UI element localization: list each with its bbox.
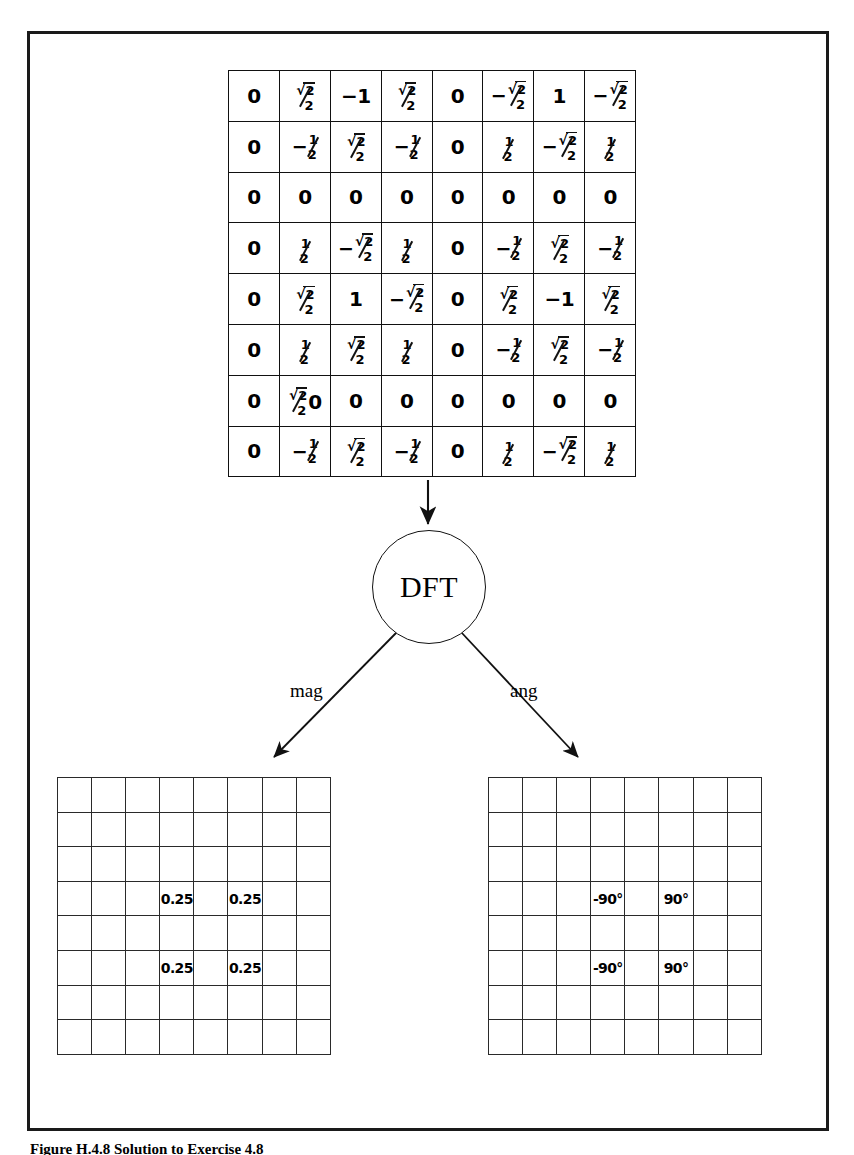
- magnitude-grid-cell-r2-c1: [58, 812, 92, 847]
- matrix-cell-r2-c8: 12: [585, 121, 636, 172]
- matrix-row: 0−12√22−12012−√2212: [229, 426, 636, 477]
- angle-grid-cell-r5-c4: [591, 916, 625, 951]
- angle-grid-cell-r6-c7: [693, 950, 727, 985]
- dft-node-label: DFT: [400, 570, 458, 604]
- magnitude-grid-cell-r1-c6: [228, 778, 262, 813]
- magnitude-grid-cell-r3-c3: [126, 847, 160, 882]
- magnitude-grid-row: 0.250.25: [58, 950, 331, 985]
- matrix-cell-r4-c7: √22: [534, 223, 585, 274]
- matrix-cell-r3-c8: 0: [585, 172, 636, 223]
- matrix-cell-r6-c4: 12: [381, 324, 432, 375]
- angle-grid-cell-r6-c8: [727, 950, 761, 985]
- magnitude-grid-cell-r8-c4: [160, 1020, 194, 1055]
- magnitude-grid-cell-r2-c8: [296, 812, 330, 847]
- matrix-cell-r1-c4: √22: [381, 71, 432, 122]
- angle-grid-cell-r5-c8: [727, 916, 761, 951]
- matrix-cell-r7-c6: 0: [483, 375, 534, 426]
- angle-grid-row: [489, 985, 762, 1020]
- matrix-cell-r6-c7: √22: [534, 324, 585, 375]
- matrix-cell-r2-c2: −12: [279, 121, 330, 172]
- magnitude-grid-cell-r3-c2: [92, 847, 126, 882]
- matrix-cell-r3-c7: 0: [534, 172, 585, 223]
- angle-grid-cell-r8-c8: [727, 1020, 761, 1055]
- magnitude-grid-cell-r4-c5: [194, 881, 228, 916]
- matrix-cell-r5-c5: 0: [432, 274, 483, 325]
- angle-grid-cell-r3-c5: [625, 847, 659, 882]
- magnitude-grid-cell-r1-c1: [58, 778, 92, 813]
- magnitude-grid-cell-r7-c4: [160, 985, 194, 1020]
- magnitude-output-grid: 0.250.250.250.25: [57, 777, 331, 1055]
- matrix-cell-r1-c6: −√22: [483, 71, 534, 122]
- dft-node: DFT: [372, 530, 486, 644]
- magnitude-grid-cell-r3-c7: [262, 847, 296, 882]
- angle-grid-cell-r4-c5: [625, 881, 659, 916]
- angle-grid-cell-r8-c7: [693, 1020, 727, 1055]
- matrix-cell-r5-c1: 0: [229, 274, 280, 325]
- magnitude-grid-cell-r3-c5: [194, 847, 228, 882]
- angle-grid-cell-r8-c6: [659, 1020, 693, 1055]
- matrix-cell-r7-c8: 0: [585, 375, 636, 426]
- matrix-cell-r8-c1: 0: [229, 426, 280, 477]
- magnitude-grid-row: [58, 778, 331, 813]
- angle-grid-cell-r1-c1: [489, 778, 523, 813]
- magnitude-grid-cell-r3-c8: [296, 847, 330, 882]
- matrix-cell-r8-c3: √22: [330, 426, 381, 477]
- magnitude-grid-cell-r6-c4: 0.25: [160, 950, 194, 985]
- magnitude-grid-cell-r2-c7: [262, 812, 296, 847]
- magnitude-grid-cell-r2-c5: [194, 812, 228, 847]
- angle-grid-cell-r2-c5: [625, 812, 659, 847]
- magnitude-grid-cell-r5-c2: [92, 916, 126, 951]
- angle-grid-cell-r4-c2: [523, 881, 557, 916]
- angle-grid-cell-r5-c3: [557, 916, 591, 951]
- matrix-cell-r6-c1: 0: [229, 324, 280, 375]
- matrix-cell-r7-c5: 0: [432, 375, 483, 426]
- angle-grid-cell-r5-c6: [659, 916, 693, 951]
- angle-grid-cell-r3-c4: [591, 847, 625, 882]
- input-image-matrix: 0√22−1√220−√221−√220−12√22−12012−√221200…: [228, 70, 636, 477]
- angle-grid-cell-r1-c8: [727, 778, 761, 813]
- magnitude-grid-cell-r7-c6: [228, 985, 262, 1020]
- matrix-cell-r3-c5: 0: [432, 172, 483, 223]
- angle-grid-cell-r3-c8: [727, 847, 761, 882]
- angle-grid-cell-r3-c1: [489, 847, 523, 882]
- matrix-cell-r3-c1: 0: [229, 172, 280, 223]
- magnitude-grid-cell-r4-c1: [58, 881, 92, 916]
- matrix-cell-r8-c4: −12: [381, 426, 432, 477]
- matrix-cell-r1-c7: 1: [534, 71, 585, 122]
- magnitude-grid-cell-r7-c1: [58, 985, 92, 1020]
- magnitude-grid-row: [58, 985, 331, 1020]
- angle-grid-row: -90°90°: [489, 881, 762, 916]
- angle-grid-cell-r7-c5: [625, 985, 659, 1020]
- magnitude-grid-cell-r6-c5: [194, 950, 228, 985]
- magnitude-grid-cell-r6-c7: [262, 950, 296, 985]
- matrix-cell-r2-c1: 0: [229, 121, 280, 172]
- angle-grid-cell-r1-c3: [557, 778, 591, 813]
- branch-label-mag: mag: [290, 680, 323, 702]
- matrix-cell-r4-c1: 0: [229, 223, 280, 274]
- angle-grid-cell-r7-c8: [727, 985, 761, 1020]
- magnitude-grid-cell-r3-c1: [58, 847, 92, 882]
- magnitude-grid-cell-r1-c2: [92, 778, 126, 813]
- matrix-cell-r5-c6: √22: [483, 274, 534, 325]
- angle-grid-cell-r5-c1: [489, 916, 523, 951]
- matrix-cell-r3-c4: 0: [381, 172, 432, 223]
- matrix-cell-r4-c8: −12: [585, 223, 636, 274]
- angle-grid-cell-r8-c5: [625, 1020, 659, 1055]
- angle-grid-cell-r3-c2: [523, 847, 557, 882]
- matrix-cell-r7-c7: 0: [534, 375, 585, 426]
- matrix-row: 0−12√22−12012−√2212: [229, 121, 636, 172]
- matrix-cell-r1-c1: 0: [229, 71, 280, 122]
- matrix-cell-r2-c5: 0: [432, 121, 483, 172]
- angle-grid-cell-r4-c1: [489, 881, 523, 916]
- angle-grid-cell-r6-c3: [557, 950, 591, 985]
- magnitude-grid-cell-r8-c6: [228, 1020, 262, 1055]
- angle-grid-cell-r7-c4: [591, 985, 625, 1020]
- magnitude-grid-cell-r1-c8: [296, 778, 330, 813]
- matrix-cell-r8-c7: −√22: [534, 426, 585, 477]
- angle-grid-row: [489, 812, 762, 847]
- angle-grid-cell-r1-c5: [625, 778, 659, 813]
- magnitude-grid-cell-r4-c6: 0.25: [228, 881, 262, 916]
- angle-grid-body: -90°90°-90°90°: [489, 778, 762, 1055]
- matrix-cell-r5-c2: √22: [279, 274, 330, 325]
- matrix-cell-r4-c5: 0: [432, 223, 483, 274]
